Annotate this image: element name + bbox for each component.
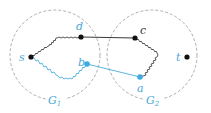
path-s-d bbox=[31, 37, 80, 57]
path-c-a bbox=[135, 38, 158, 77]
graph-g2-boundary bbox=[107, 10, 197, 100]
vertex-d bbox=[78, 34, 83, 39]
vertex-t bbox=[184, 54, 189, 59]
edge-d-c bbox=[81, 37, 135, 38]
vertex-s bbox=[28, 54, 33, 59]
label-s: s bbox=[19, 51, 25, 64]
label-d: d bbox=[76, 20, 83, 33]
label-c: c bbox=[140, 24, 146, 37]
label-t: t bbox=[176, 51, 181, 64]
label-b: b bbox=[78, 56, 85, 69]
label-a: a bbox=[137, 82, 144, 95]
vertex-c bbox=[132, 35, 137, 40]
graph-diagram: s d c t b a G1 G2 bbox=[0, 0, 211, 113]
vertex-a bbox=[137, 74, 143, 80]
